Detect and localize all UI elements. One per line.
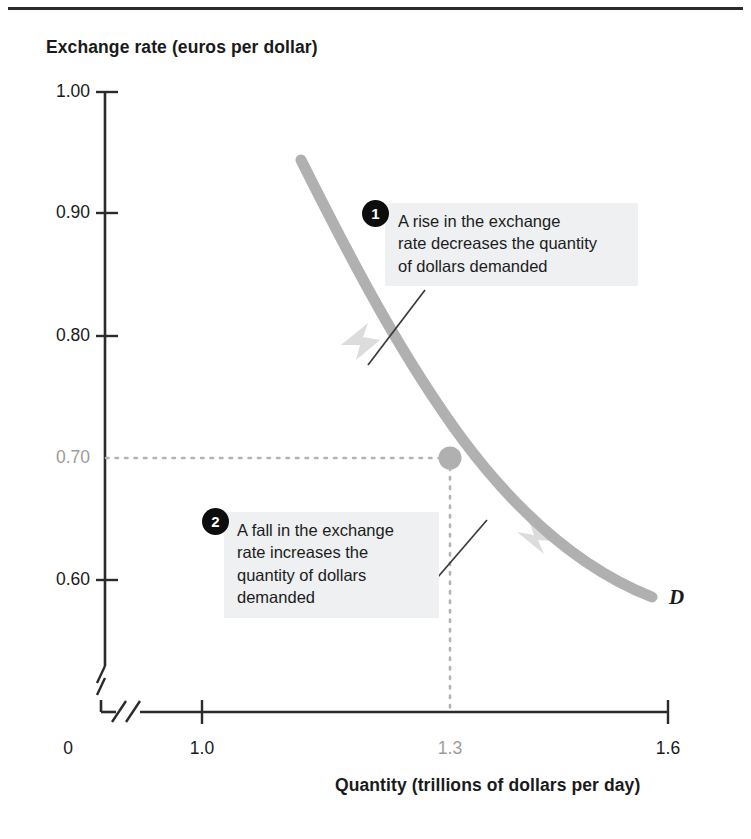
exchange-rate-demand-figure: Exchange rate (euros per dollar) Quantit… [0,0,751,839]
x-tick-label-1.0: 1.0 [170,738,234,759]
y-tick-label-0.80: 0.80 [28,325,90,346]
y-axis-title: Exchange rate (euros per dollar) [46,37,318,58]
y-tick-label-0.90: 0.90 [28,202,90,223]
y-axis-ticks [96,92,118,580]
x-axis-title: Quantity (trillions of dollars per day) [335,775,640,796]
equilibrium-point-marker [439,447,462,470]
demand-curve-label: D [669,585,684,610]
callout-2-badge: 2 [202,508,229,535]
chart-canvas [0,0,751,839]
x-tick-label-1.6: 1.6 [636,738,700,759]
y-tick-label-0.60: 0.60 [28,569,90,590]
x-tick-label-1.3: 1.3 [418,738,482,759]
x-axis-break-mark [112,701,140,722]
upward-movement-arrow [341,323,380,360]
y-tick-label-0.70: 0.70 [28,447,90,468]
callout-2-box: A fall in the exchange rate increases th… [224,512,439,618]
callout-1-box: A rise in the exchange rate decreases th… [385,203,638,286]
callout-1-badge: 1 [362,200,389,227]
x-tick-label-0: 0 [36,738,100,759]
y-axis-break-mark [97,666,105,695]
y-tick-label-1.00: 1.00 [28,81,90,102]
